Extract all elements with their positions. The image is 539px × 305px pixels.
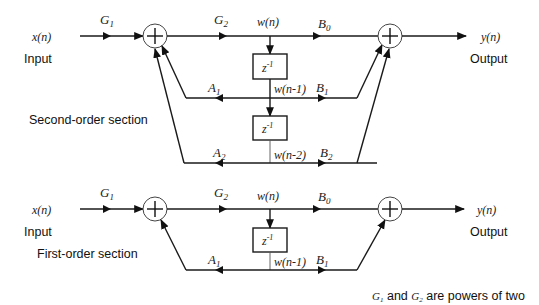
footnote: G1 and G2 are powers of two [372, 289, 525, 304]
node-w-n-1: w(n-1) [274, 255, 306, 269]
b0-arrow-icon [313, 205, 321, 213]
input-label: Input [24, 225, 52, 239]
g1-arrow-icon [103, 205, 111, 213]
g1-arrow-icon [103, 32, 111, 40]
g2-arrow-icon [219, 205, 227, 213]
second-order-section-label: Second-order section [29, 113, 148, 127]
b1-feedforward-wire [357, 220, 385, 270]
node-w-n: w(n) [257, 15, 279, 29]
g1-label: G1 [100, 185, 114, 202]
filter-diagram: x(n) Input G1 G2 w(n) B0 z-1 z-1 A1 w(n-… [0, 0, 539, 305]
b2-feedforward-wire [357, 49, 389, 163]
g1-label: G1 [100, 12, 114, 29]
node-w-n-1: w(n-1) [274, 82, 306, 96]
a1-label: A1 [207, 252, 220, 269]
b0-label: B0 [318, 16, 331, 33]
a2-feedback-wire [155, 49, 184, 163]
output-label: Output [470, 52, 508, 66]
b0-arrow-icon [313, 32, 321, 40]
output-label: Output [470, 225, 508, 239]
first-order-section-label: First-order section [37, 247, 138, 261]
b1-feedforward-wire [357, 45, 382, 98]
input-signal-label: x(n) [31, 203, 51, 217]
b0-label: B0 [318, 189, 331, 206]
b2-arrow-icon [318, 159, 326, 167]
a1-label: A1 [207, 80, 220, 97]
g2-label: G2 [214, 185, 228, 202]
input-signal-label: x(n) [31, 30, 51, 44]
first-order-section: x(n) Input G1 G2 w(n) B0 z-1 A1 w(n-1) B… [24, 185, 508, 274]
a2-label: A2 [212, 145, 226, 162]
a1-feedback-wire [161, 220, 186, 270]
b2-label: B2 [320, 145, 333, 162]
output-signal-label: y(n) [480, 30, 500, 44]
node-w-n: w(n) [257, 189, 279, 203]
output-signal-label: y(n) [476, 203, 496, 217]
input-label: Input [24, 52, 52, 66]
node-w-n-2: w(n-2) [274, 148, 306, 162]
b1-label: B1 [316, 252, 328, 269]
g2-label: G2 [214, 12, 228, 29]
g2-arrow-icon [219, 32, 227, 40]
second-order-section: x(n) Input G1 G2 w(n) B0 z-1 z-1 A1 w(n-… [24, 12, 508, 167]
b1-label: B1 [316, 80, 328, 97]
